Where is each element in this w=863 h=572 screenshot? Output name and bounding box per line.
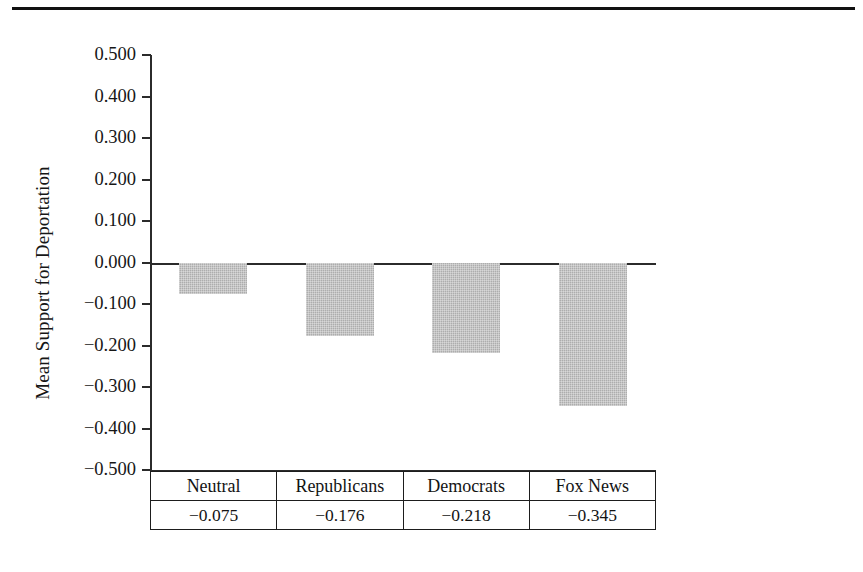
bar-democrats: [432, 263, 500, 353]
table-value-cell: −0.345: [529, 501, 655, 530]
y-tick-label: −0.200: [42, 336, 136, 354]
table-header-cell: Fox News: [529, 472, 655, 501]
y-tick-label: 0.400: [42, 87, 136, 105]
data-table: NeutralRepublicansDemocratsFox News −0.0…: [150, 471, 656, 530]
figure-canvas: Mean Support for Deportation 0.5000.4000…: [0, 0, 863, 572]
bar-republicans: [306, 263, 374, 336]
bar-fox-news: [559, 263, 627, 406]
y-tick-label: −0.400: [42, 419, 136, 437]
y-tick-label: 0.500: [42, 45, 136, 63]
y-tick-label: −0.500: [42, 460, 136, 478]
table-value-cell: −0.176: [277, 501, 403, 530]
y-tick-label: 0.200: [42, 170, 136, 188]
y-tick-label: 0.300: [42, 128, 136, 146]
y-tick-label: −0.100: [42, 294, 136, 312]
table-header-cell: Neutral: [151, 472, 277, 501]
top-rule-divider: [12, 7, 855, 10]
table-row: NeutralRepublicansDemocratsFox News: [151, 472, 656, 501]
table-row: −0.075−0.176−0.218−0.345: [151, 501, 656, 530]
table-header-cell: Democrats: [403, 472, 529, 501]
y-tick-label: −0.300: [42, 377, 136, 395]
y-tick-label: 0.100: [42, 211, 136, 229]
table-value-cell: −0.075: [151, 501, 277, 530]
y-tick-label: 0.000: [42, 253, 136, 271]
table-value-cell: −0.218: [403, 501, 529, 530]
table-header-cell: Republicans: [277, 472, 403, 501]
bar-neutral: [179, 263, 247, 294]
